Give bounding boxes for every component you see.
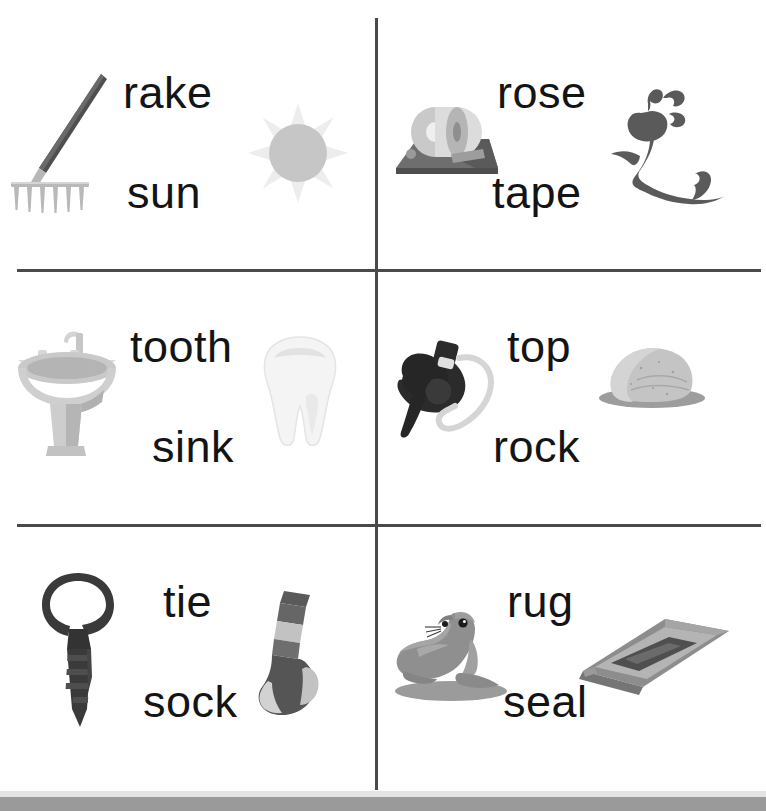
word-seal[interactable]: seal bbox=[503, 679, 588, 724]
rose-illustration bbox=[607, 76, 732, 221]
page-bottom-band bbox=[0, 797, 766, 811]
word-sink[interactable]: sink bbox=[152, 424, 234, 469]
word-rug[interactable]: rug bbox=[507, 579, 574, 624]
worksheet-cell-3[interactable]: tooth sink bbox=[0, 272, 375, 524]
word-tape[interactable]: tape bbox=[492, 170, 582, 215]
worksheet-cell-6[interactable]: rug seal bbox=[379, 527, 754, 790]
tape-dispenser-illustration bbox=[393, 106, 503, 181]
word-top[interactable]: top bbox=[507, 324, 571, 369]
word-tie[interactable]: tie bbox=[163, 579, 212, 624]
rug-illustration bbox=[577, 609, 732, 699]
sink-illustration bbox=[12, 324, 122, 464]
word-rake[interactable]: rake bbox=[123, 70, 213, 115]
sun-illustration bbox=[248, 103, 348, 203]
grid-rule-vertical bbox=[375, 18, 378, 790]
worksheet-cell-5[interactable]: tie sock bbox=[0, 527, 375, 790]
worksheet-cell-2[interactable]: rose tape bbox=[379, 18, 754, 269]
seal-illustration bbox=[393, 597, 513, 702]
rock-illustration bbox=[597, 344, 707, 409]
worksheet-page: rake sun bbox=[0, 0, 766, 811]
tooth-illustration bbox=[258, 334, 343, 454]
word-rose[interactable]: rose bbox=[497, 70, 587, 115]
word-sun[interactable]: sun bbox=[127, 170, 201, 215]
rake-illustration bbox=[8, 70, 113, 220]
word-rock[interactable]: rock bbox=[493, 424, 580, 469]
worksheet-cell-1[interactable]: rake sun bbox=[0, 18, 375, 269]
necktie-illustration bbox=[42, 569, 122, 749]
word-sock[interactable]: sock bbox=[143, 679, 238, 724]
sock-illustration bbox=[258, 589, 330, 724]
word-tooth[interactable]: tooth bbox=[130, 324, 233, 369]
worksheet-cell-4[interactable]: top rock bbox=[379, 272, 754, 524]
